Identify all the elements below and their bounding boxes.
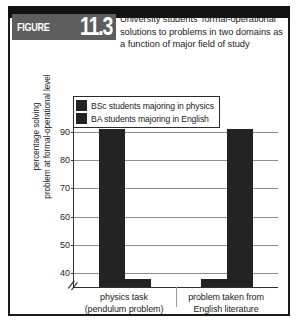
bar	[201, 279, 227, 287]
x-axis-group-label-physics-line1: physics task	[100, 292, 148, 302]
y-axis-label-line1: percentage solving	[31, 103, 41, 171]
chart-legend: BSc students majoring in physics BA stud…	[73, 96, 220, 128]
figure-badge: FIGURE 11.3	[12, 14, 116, 40]
figure-card: FIGURE 11.3 University students' formal-…	[8, 6, 290, 316]
y-axis-tick	[71, 160, 74, 161]
y-axis-label: percentage solving problem at formal-ope…	[31, 62, 52, 212]
plot-area: // 405060708090	[73, 118, 278, 288]
y-axis-label-line2: problem at formal-operational level	[41, 74, 51, 198]
y-axis-tick	[71, 132, 74, 133]
y-axis-tick	[71, 217, 74, 218]
bar	[125, 279, 151, 287]
y-axis-tick-label: 90	[60, 127, 70, 137]
y-axis-tick-label: 60	[60, 212, 70, 222]
y-axis-tick	[71, 188, 74, 189]
legend-label-ba-english: BA students majoring in English	[91, 114, 209, 124]
legend-swatch-bsc-physics	[76, 100, 87, 111]
y-axis-tick	[71, 245, 74, 246]
y-axis-tick-label: 70	[60, 183, 70, 193]
x-axis-group-label-english-line2: English literature	[193, 304, 258, 314]
legend-label-bsc-physics: BSc students majoring in physics	[91, 101, 214, 111]
y-axis-tick-label: 80	[60, 155, 70, 165]
x-axis-group-label-physics: physics task (pendulum problem)	[74, 291, 174, 315]
bar	[99, 129, 125, 287]
figure-badge-number: 11.3	[80, 12, 112, 40]
x-axis-group-label-physics-line2: (pendulum problem)	[85, 304, 164, 314]
figure-caption: University students' formal-operational …	[120, 13, 286, 51]
figure-badge-word: FIGURE	[17, 21, 50, 33]
legend-swatch-ba-english	[76, 113, 87, 124]
y-axis-tick	[71, 273, 74, 274]
bar	[227, 129, 253, 287]
x-axis-group-label-english: problem taken from English literature	[176, 291, 276, 315]
legend-item-bsc-physics: BSc students majoring in physics	[76, 99, 214, 112]
legend-item-ba-english: BA students majoring in English	[76, 112, 214, 125]
x-axis-group-label-english-line1: problem taken from	[188, 292, 264, 302]
y-axis-tick-label: 40	[60, 268, 70, 278]
y-axis-tick-label: 50	[60, 240, 70, 250]
